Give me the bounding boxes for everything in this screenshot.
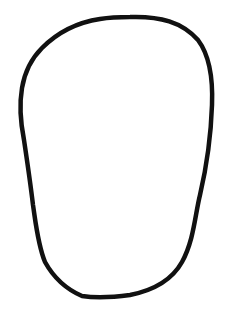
drawing-canvas <box>0 0 238 313</box>
outline-drawing <box>0 0 238 313</box>
closed-outline-shape <box>21 17 212 297</box>
